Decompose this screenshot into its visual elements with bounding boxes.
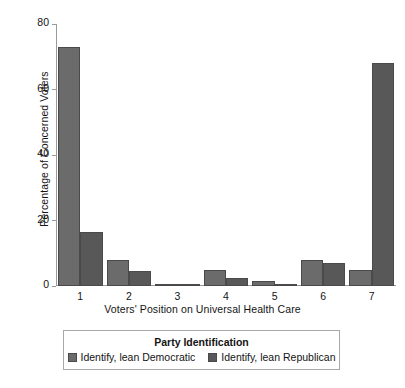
y-tick-label: 20: [37, 213, 49, 225]
bar-group: [58, 24, 103, 286]
bar-democratic: [58, 47, 80, 286]
legend: Party Identification Identify, lean Demo…: [63, 330, 340, 370]
x-tick-label: 2: [114, 290, 144, 302]
y-tick-label: 80: [37, 16, 49, 28]
bar-group: [349, 24, 394, 286]
legend-label: Identify, lean Democratic: [81, 351, 196, 363]
x-axis-title: Voters' Position on Universal Health Car…: [0, 303, 405, 315]
y-tick-label: 0: [43, 278, 49, 290]
bar-democratic: [301, 260, 323, 286]
bar-democratic: [349, 270, 371, 286]
y-tick-label: 40: [37, 147, 49, 159]
x-tick-label: 3: [162, 290, 192, 302]
bar-series-container: 1234567: [56, 24, 396, 286]
bar-group: [155, 24, 200, 286]
x-tick-label: 6: [308, 290, 338, 302]
bar-republican: [372, 63, 394, 286]
bar-republican: [80, 232, 102, 286]
bar-republican: [275, 284, 297, 286]
bar-group: [252, 24, 297, 286]
bar-republican: [129, 271, 151, 286]
legend-item: Identify, lean Democratic: [68, 351, 196, 363]
bar-democratic: [155, 284, 177, 286]
bar-group: [107, 24, 152, 286]
legend-swatch-icon: [208, 353, 217, 362]
bar-democratic: [107, 260, 129, 286]
legend-item: Identify, lean Republican: [208, 351, 335, 363]
bar-republican: [323, 263, 345, 286]
chart-figure: Percentage of Concerned Voters 020406080…: [0, 0, 405, 388]
legend-swatch-icon: [68, 353, 77, 362]
bar-republican: [177, 284, 199, 286]
bar-republican: [226, 278, 248, 286]
bar-democratic: [204, 270, 226, 286]
x-tick-label: 1: [65, 290, 95, 302]
bar-group: [301, 24, 346, 286]
bar-democratic: [252, 281, 274, 286]
legend-items: Identify, lean DemocraticIdentify, lean …: [68, 351, 335, 363]
x-tick-label: 4: [211, 290, 241, 302]
x-tick-label: 7: [357, 290, 387, 302]
legend-title: Party Identification: [68, 336, 335, 348]
legend-label: Identify, lean Republican: [221, 351, 335, 363]
bar-group: [204, 24, 249, 286]
y-tick-label: 60: [37, 82, 49, 94]
x-tick-label: 5: [260, 290, 290, 302]
plot-area: 020406080 1234567: [56, 24, 396, 286]
